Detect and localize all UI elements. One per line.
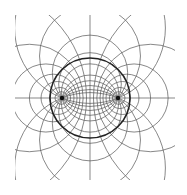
bipolar-field-lines xyxy=(0,0,187,195)
diagram xyxy=(0,0,187,195)
